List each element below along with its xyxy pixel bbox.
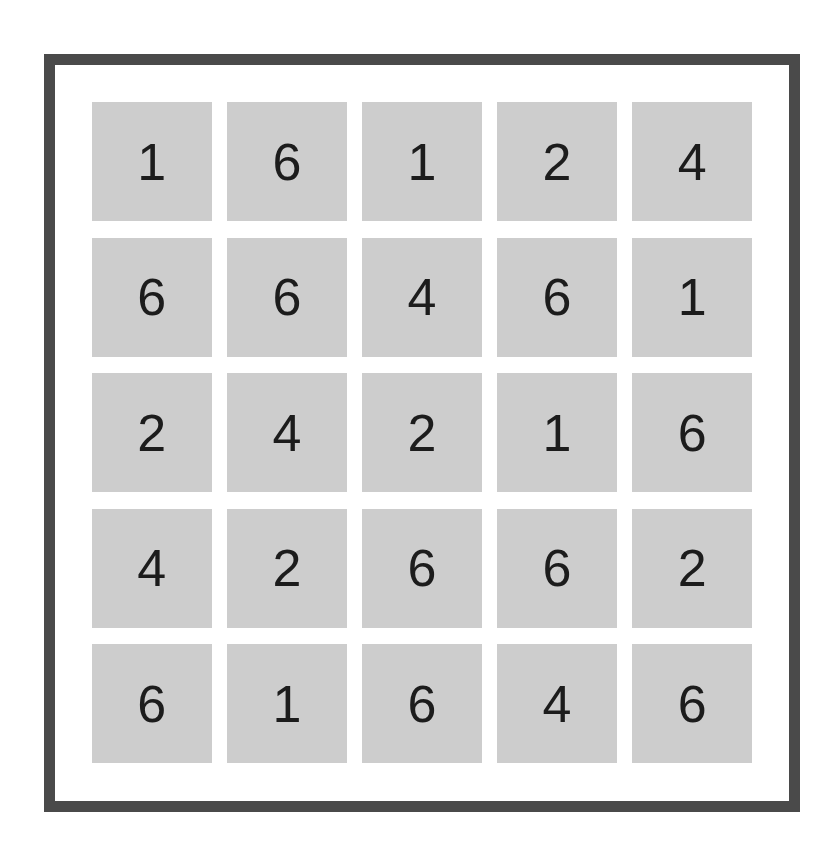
grid-cell-value: 2	[408, 407, 437, 459]
grid-cell[interactable]: 2	[227, 509, 347, 628]
grid-cell[interactable]: 2	[92, 373, 212, 492]
app-root: 1 6 1 2 4 6 6	[0, 0, 836, 854]
grid-cell[interactable]: 4	[362, 238, 482, 357]
grid-cell[interactable]: 4	[92, 509, 212, 628]
grid-cell-value: 6	[272, 271, 301, 323]
grid-cell-value: 1	[137, 136, 166, 188]
grid-cell[interactable]: 6	[497, 509, 617, 628]
grid-row: 6 1 6 4 6	[92, 644, 752, 763]
grid-cell-value: 6	[543, 271, 572, 323]
grid-cell[interactable]: 1	[227, 644, 347, 763]
grid-cell-value: 6	[137, 678, 166, 730]
grid-cell[interactable]: 4	[632, 102, 752, 221]
grid-cell-value: 6	[678, 678, 707, 730]
grid-cell[interactable]: 6	[92, 238, 212, 357]
grid-cell-value: 2	[137, 407, 166, 459]
grid-cell-value: 2	[678, 542, 707, 594]
grid-cell-value: 6	[408, 542, 437, 594]
grid-cell[interactable]: 4	[497, 644, 617, 763]
grid-cell[interactable]: 2	[362, 373, 482, 492]
grid-cell-value: 4	[137, 542, 166, 594]
grid-cell-value: 2	[272, 542, 301, 594]
grid-cell-value: 1	[408, 136, 437, 188]
number-grid: 1 6 1 2 4 6 6	[92, 102, 752, 780]
grid-cell-value: 2	[543, 136, 572, 188]
grid-cell-value: 1	[272, 678, 301, 730]
grid-cell[interactable]: 6	[362, 644, 482, 763]
grid-row: 4 2 6 6 2	[92, 509, 752, 628]
grid-cell[interactable]: 2	[497, 102, 617, 221]
grid-cell-value: 4	[543, 678, 572, 730]
grid-cell-value: 4	[678, 136, 707, 188]
grid-cell-value: 1	[678, 271, 707, 323]
grid-cell-value: 6	[543, 542, 572, 594]
grid-cell[interactable]: 1	[92, 102, 212, 221]
grid-cell-value: 6	[137, 271, 166, 323]
grid-cell[interactable]: 6	[632, 644, 752, 763]
grid-cell[interactable]: 6	[92, 644, 212, 763]
grid-row: 2 4 2 1 6	[92, 373, 752, 492]
grid-cell[interactable]: 6	[227, 238, 347, 357]
grid-cell-value: 6	[272, 136, 301, 188]
grid-cell[interactable]: 6	[632, 373, 752, 492]
grid-panel: 1 6 1 2 4 6 6	[44, 54, 800, 812]
grid-cell[interactable]: 1	[497, 373, 617, 492]
grid-cell-value: 4	[272, 407, 301, 459]
grid-cell[interactable]: 1	[362, 102, 482, 221]
grid-cell[interactable]: 4	[227, 373, 347, 492]
grid-row: 1 6 1 2 4	[92, 102, 752, 221]
grid-cell-value: 6	[408, 678, 437, 730]
grid-row: 6 6 4 6 1	[92, 238, 752, 357]
grid-cell[interactable]: 6	[362, 509, 482, 628]
grid-cell-value: 4	[408, 271, 437, 323]
grid-cell[interactable]: 1	[632, 238, 752, 357]
grid-cell[interactable]: 6	[497, 238, 617, 357]
grid-cell[interactable]: 6	[227, 102, 347, 221]
grid-cell-value: 1	[543, 407, 572, 459]
grid-cell-value: 6	[678, 407, 707, 459]
grid-cell[interactable]: 2	[632, 509, 752, 628]
